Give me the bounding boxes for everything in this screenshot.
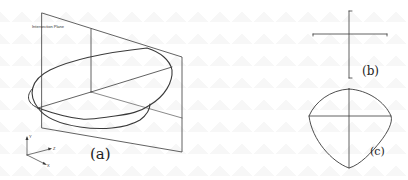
- caption-c: (c): [370, 145, 385, 158]
- section-line-right: [91, 67, 172, 92]
- depth-line: [91, 92, 182, 118]
- figure-canvas: Intersection Plane Y Z X (a) (b) (c): [0, 0, 408, 180]
- caption-b: (b): [362, 64, 379, 78]
- section-line-left: [38, 92, 91, 108]
- axis-z-label: Z: [53, 146, 55, 151]
- axis-y-label: Y: [29, 134, 32, 139]
- axis-z: [27, 149, 50, 155]
- intersection-plane-label: Intersection Plane: [32, 24, 64, 29]
- bowl-bottom: [38, 104, 150, 129]
- intersection-plane: [42, 13, 182, 152]
- caption-a: (a): [90, 145, 111, 163]
- axis-z-arrow: [48, 148, 52, 151]
- axis-x: [27, 155, 45, 164]
- bowl-rim: [32, 48, 172, 119]
- axis-x-label: X: [47, 163, 50, 168]
